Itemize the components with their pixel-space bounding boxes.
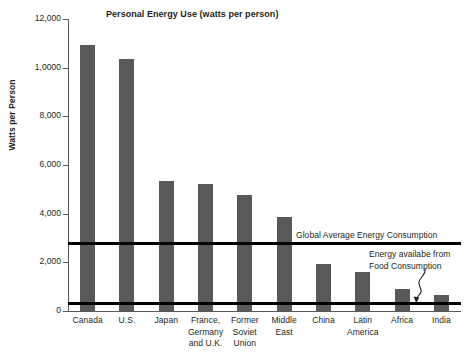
food-consumption-label-line1: Energy availabe from — [369, 249, 450, 261]
y-axis-tick-label: 1,0000 — [3, 62, 61, 72]
y-axis-tick-label: 6,000 — [3, 159, 61, 169]
x-axis-tick-label-line: East — [259, 327, 310, 339]
bar — [355, 272, 370, 311]
y-axis-tick — [63, 214, 68, 215]
y-axis-tick-label: 0 — [3, 305, 61, 315]
y-axis-labels: 02,0004,0006,0008,0001,000012,000 — [0, 0, 61, 357]
y-axis-tick — [63, 262, 68, 263]
x-axis-tick-label-line: America — [337, 327, 388, 339]
y-axis-tick-label: 2,000 — [3, 256, 61, 266]
y-axis-tick — [63, 311, 68, 312]
global-average-reference-line — [68, 242, 461, 245]
bar — [277, 217, 292, 311]
y-axis-tick — [63, 68, 68, 69]
y-axis-tick-label: 4,000 — [3, 208, 61, 218]
bar — [119, 59, 134, 311]
chart-title: Personal Energy Use (watts per person) — [106, 9, 278, 19]
y-axis-tick-label: 12,000 — [3, 13, 61, 23]
energy-use-bar-chart: Personal Energy Use (watts per person) W… — [0, 0, 465, 357]
y-axis-tick — [63, 116, 68, 117]
y-axis-tick — [63, 19, 68, 20]
leader-arrow-icon — [395, 268, 435, 306]
x-axis-line — [68, 311, 461, 312]
y-axis-tick-label: 8,000 — [3, 110, 61, 120]
bar — [159, 181, 174, 311]
x-axis-tick-label-line: India — [416, 315, 465, 327]
y-axis-tick — [63, 165, 68, 166]
global-average-label: Global Average Energy Consumption — [296, 230, 437, 240]
bar — [198, 184, 213, 311]
x-axis-labels: CanadaU.S.JapanFrance,Germanyand U.K.For… — [68, 315, 461, 357]
x-axis-tick-label: India — [416, 315, 465, 327]
bar — [80, 45, 95, 311]
bar — [237, 195, 252, 311]
x-axis-tick-label-line: Union — [219, 338, 270, 350]
